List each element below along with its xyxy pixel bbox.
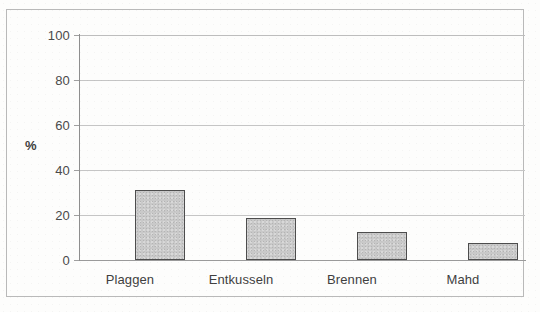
bar-brennen (357, 232, 407, 260)
x-category-label-mahd: Mahd (383, 272, 540, 287)
y-tick-label-40: 40 (26, 163, 70, 178)
bar-plaggen (135, 190, 185, 260)
bar-group-plaggen (104, 35, 215, 260)
bar-group-mahd (437, 35, 540, 260)
y-tick-label-80: 80 (26, 73, 70, 88)
bar-entkusseln (246, 218, 296, 260)
y-tick-label-60: 60 (26, 118, 70, 133)
bar-mahd (468, 243, 518, 260)
bar-chart-figure: % 100 80 60 40 20 0 Plaggen (0, 0, 540, 312)
y-tick-label-0: 0 (26, 253, 70, 268)
y-tick-label-100: 100 (26, 28, 70, 43)
bar-group-entkusseln (215, 35, 326, 260)
x-axis-line (80, 260, 526, 261)
y-axis-tick-labels: 100 80 60 40 20 0 (20, 0, 70, 312)
bar-group-brennen (326, 35, 437, 260)
plot-area (80, 35, 525, 260)
y-tick-label-20: 20 (26, 208, 70, 223)
